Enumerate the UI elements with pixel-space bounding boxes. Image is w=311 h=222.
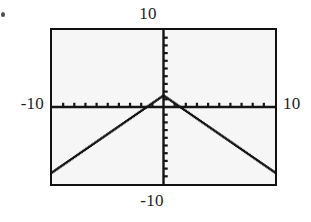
graph-figure: 10 -10 -10 10 bbox=[0, 0, 311, 222]
scan-artifact-speck bbox=[1, 12, 5, 17]
x-axis-max-label: 10 bbox=[283, 95, 300, 112]
calculator-screen-frame bbox=[50, 28, 277, 186]
plot-canvas bbox=[52, 30, 275, 184]
y-axis-min-label: -10 bbox=[140, 192, 163, 209]
x-axis-min-label: -10 bbox=[21, 95, 44, 112]
y-axis-max-label: 10 bbox=[139, 5, 156, 22]
